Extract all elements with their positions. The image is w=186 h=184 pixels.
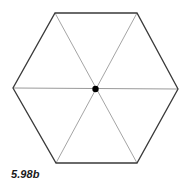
figure-caption: 5.98b	[11, 168, 40, 180]
figure-container: 5.98b	[0, 0, 186, 184]
center-point-dot	[92, 86, 98, 92]
hexagon-diagram	[0, 0, 186, 184]
